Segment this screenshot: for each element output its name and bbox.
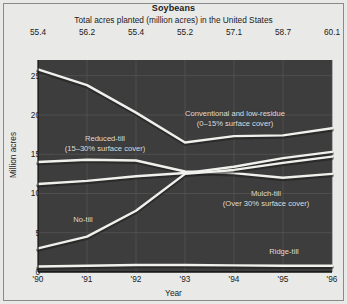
x-axis-tick-label: '96 (327, 274, 338, 284)
x-axis-tick-label: '92 (131, 274, 142, 284)
annotation-line-secondary: (Over 30% surface cover) (223, 198, 310, 208)
chart-figure: Soybeans Total acres planted (million ac… (0, 0, 347, 304)
x-axis-tick-label: '91 (82, 274, 93, 284)
x-axis-tick-label: '90 (33, 274, 44, 284)
annotation-line-primary: No-till (73, 215, 92, 225)
annotation-reduced-till: Reduced-till(15–30% surface cover) (65, 134, 146, 153)
x-axis-label: Year (0, 288, 347, 298)
annotation-line-primary: Mulch-till (223, 189, 310, 199)
x-axis-ticks: '90'91'92'93'94'95'96 (0, 274, 347, 288)
annotation-mulch-till: Mulch-till(Over 30% surface cover) (223, 189, 310, 208)
annotation-no-till: No-till (73, 215, 92, 225)
annotation-line-primary: Ridge-till (269, 247, 299, 257)
x-axis-tick-label: '94 (229, 274, 240, 284)
x-axis-tick-label: '95 (278, 274, 289, 284)
annotation-line-secondary: (0–15% surface cover) (185, 118, 285, 128)
annotation-line-primary: Reduced-till (65, 134, 146, 144)
annotation-line-secondary: (15–30% surface cover) (65, 143, 146, 153)
annotation-ridge-till: Ridge-till (269, 247, 299, 257)
plot-area (0, 0, 347, 304)
annotation-line-primary: Conventional and low-residue (185, 109, 285, 119)
x-axis-tick-label: '93 (180, 274, 191, 284)
annotation-conventional: Conventional and low-residue(0–15% surfa… (185, 109, 285, 128)
